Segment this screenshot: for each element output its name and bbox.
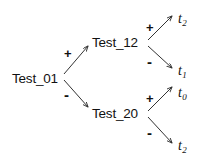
node-test-20: Test_20 <box>92 107 138 121</box>
edge-sign-root-upper: + <box>64 47 72 60</box>
node-test-01: Test_01 <box>12 72 58 86</box>
leaf-node-t2-top: t2 <box>178 12 186 26</box>
edge-sign-lower-t2: - <box>147 125 152 140</box>
edge-sign-upper-t2: + <box>146 21 154 34</box>
leaf-subscript: 2 <box>182 145 187 155</box>
leaf-node-t2-bottom: t2 <box>178 139 186 153</box>
leaf-subscript: 1 <box>182 70 187 80</box>
edge-sign-upper-t1: - <box>147 54 152 69</box>
node-test-12: Test_12 <box>92 36 138 50</box>
edge-sign-root-lower: - <box>64 87 69 102</box>
leaf-node-t0: t0 <box>178 86 186 100</box>
leaf-subscript: 0 <box>182 92 187 102</box>
edge-sign-lower-t0: + <box>146 92 154 105</box>
leaf-node-t1: t1 <box>178 64 186 78</box>
decision-tree-diagram: Test_01 Test_12 Test_20 t2 t1 t0 t2 + - … <box>0 0 201 165</box>
leaf-subscript: 2 <box>182 18 187 28</box>
